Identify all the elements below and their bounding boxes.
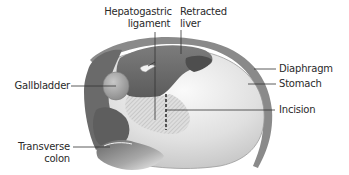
label-incision: Incision	[279, 104, 315, 116]
anatomy-figure: Hepatogastric ligament Retracted liver G…	[0, 0, 349, 175]
label-transverse-line1: Transverse	[4, 141, 70, 153]
label-hepatogastric-line2: ligament	[96, 18, 180, 30]
label-transverse-line2: colon	[4, 153, 70, 165]
label-retracted-line2: liver	[180, 18, 227, 30]
label-stomach: Stomach	[279, 78, 322, 90]
label-retracted-liver: Retracted liver	[180, 6, 227, 30]
label-diaphragm: Diaphragm	[279, 63, 333, 75]
label-hepatogastric-ligament: Hepatogastric ligament	[96, 6, 180, 30]
label-transverse-colon: Transverse colon	[4, 141, 70, 165]
label-hepatogastric-line1: Hepatogastric	[96, 6, 180, 18]
label-retracted-line1: Retracted	[180, 6, 227, 18]
label-gallbladder: Gallbladder	[4, 80, 70, 92]
